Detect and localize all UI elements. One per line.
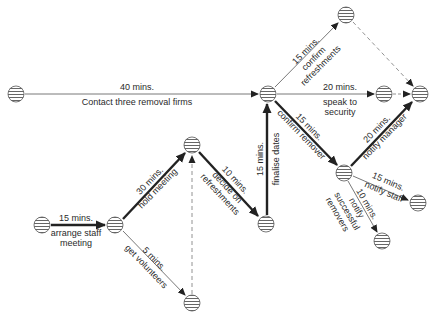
event-node-9[interactable] [376, 86, 392, 102]
event-node-5[interactable] [184, 295, 200, 311]
event-node-11[interactable] [336, 165, 352, 181]
label-arrange-staff-meeting-2: meeting [60, 238, 92, 248]
event-node-2[interactable] [34, 217, 50, 233]
network-canvas: 40 mins. Contact three removal firms 15 … [0, 0, 441, 327]
event-node-8[interactable] [338, 7, 354, 23]
label-arrange-staff-meeting-1: arrange staff [51, 228, 102, 238]
event-node-6[interactable] [258, 216, 274, 232]
activity-edges [25, 22, 413, 295]
event-node-7[interactable] [260, 86, 276, 102]
label-speak-to-security-2: security [324, 107, 356, 117]
label-contact-removal-firms: Contact three removal firms [82, 97, 193, 107]
label-finalise-dates: finalise dates [271, 132, 281, 185]
edge-dummy-refreshments [353, 22, 413, 86]
event-node-12[interactable] [410, 195, 426, 211]
duration-finalise-dates: 15 mins. [255, 142, 265, 176]
activity-network-diagram: 40 mins. Contact three removal firms 15 … [0, 0, 441, 327]
label-speak-to-security-1: speak to [323, 97, 357, 107]
duration-arrange-staff-meeting: 15 mins. [59, 213, 93, 223]
event-node-3[interactable] [107, 217, 123, 233]
event-node-10[interactable] [412, 86, 428, 102]
event-node-1[interactable] [8, 86, 24, 102]
duration-speak-to-security: 20 mins. [323, 82, 357, 92]
duration-contact-removal-firms: 40 mins. [120, 82, 154, 92]
event-node-4[interactable] [184, 137, 200, 153]
event-node-13[interactable] [374, 233, 390, 249]
